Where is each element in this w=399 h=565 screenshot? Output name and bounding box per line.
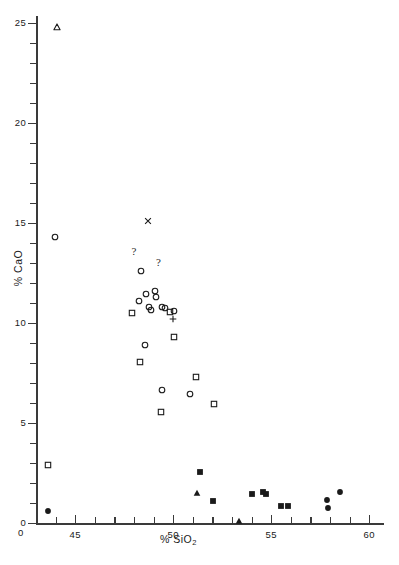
y-axis-tick-minor <box>30 343 36 344</box>
y-axis-tick-minor <box>30 203 36 204</box>
x-axis-tick-major <box>75 515 76 523</box>
data-point-open-square <box>135 358 144 367</box>
y-axis-tick-minor <box>30 463 36 464</box>
y-axis-tick-minor <box>30 163 36 164</box>
x-axis-tick-minor <box>350 517 351 523</box>
y-axis-tick-minor <box>30 443 36 444</box>
data-point-open-square <box>170 333 179 342</box>
origin-tick-label: 0 <box>18 527 24 538</box>
plot-area: 0510152025455055600 % CaO % SiO2 ?? <box>0 0 399 565</box>
x-axis-tick-label: 55 <box>256 529 286 540</box>
data-point-filled-square <box>195 468 204 477</box>
y-axis-tick-minor <box>30 283 36 284</box>
y-axis-tick-minor <box>30 243 36 244</box>
data-point-filled-triangle <box>234 517 243 526</box>
data-point-filled-triangle <box>192 489 201 498</box>
y-axis-tick-major <box>28 423 36 424</box>
data-point-open-square <box>166 308 175 317</box>
x-axis-tick-minor <box>193 517 194 523</box>
y-axis-tick-label: 10 <box>2 317 26 328</box>
x-axis-tick-label: 60 <box>354 529 384 540</box>
x-axis-tick-major <box>369 515 370 523</box>
x-axis-tick-minor <box>291 517 292 523</box>
y-axis-line <box>36 16 38 524</box>
x-axis-title: % SiO2 <box>160 533 197 547</box>
x-axis-tick-label: 45 <box>60 529 90 540</box>
x-axis-tick-minor <box>56 517 57 523</box>
y-axis-tick-major <box>28 523 36 524</box>
data-point-cross-x <box>143 217 152 226</box>
y-axis-tick-minor <box>30 143 36 144</box>
data-point-open-circle <box>151 293 160 302</box>
x-axis-tick-minor <box>154 517 155 523</box>
data-point-filled-circle <box>335 488 344 497</box>
y-axis-tick-minor <box>30 263 36 264</box>
y-axis-tick-minor <box>30 183 36 184</box>
x-axis-tick-major <box>271 515 272 523</box>
y-axis-tick-label: 5 <box>2 417 26 428</box>
data-point-open-circle <box>140 341 149 350</box>
data-point-open-circle <box>134 297 143 306</box>
data-point-filled-square <box>262 490 271 499</box>
y-axis-tick-label: 25 <box>2 17 26 28</box>
y-axis-tick-minor <box>30 63 36 64</box>
x-axis-line <box>36 523 384 525</box>
x-axis-tick-minor <box>330 517 331 523</box>
x-axis-title-subscript: 2 <box>192 538 197 547</box>
y-axis-tick-minor <box>30 103 36 104</box>
x-axis-tick-minor <box>114 517 115 523</box>
annotation-question-mark: ? <box>156 256 161 268</box>
x-axis-tick-major <box>173 515 174 523</box>
data-point-open-square <box>128 309 137 318</box>
x-axis-tick-minor <box>212 517 213 523</box>
x-axis-tick-minor <box>252 517 253 523</box>
y-axis-tick-label: 20 <box>2 117 26 128</box>
cao-vs-sio2-scatter-figure: 0510152025455055600 % CaO % SiO2 ?? <box>0 0 399 565</box>
x-axis-title-text: % SiO <box>160 533 192 545</box>
data-point-filled-circle <box>43 507 52 516</box>
y-axis-tick-minor <box>30 483 36 484</box>
data-point-open-circle <box>50 233 59 242</box>
y-axis-tick-major <box>28 323 36 324</box>
x-axis-tick-minor <box>95 517 96 523</box>
x-axis-tick-minor <box>232 517 233 523</box>
data-point-open-square <box>157 408 166 417</box>
data-point-open-circle <box>136 267 145 276</box>
y-axis-tick-minor <box>30 303 36 304</box>
x-axis-tick-minor <box>134 517 135 523</box>
data-point-open-triangle <box>52 23 61 32</box>
data-point-open-circle <box>158 386 167 395</box>
y-axis-tick-major <box>28 23 36 24</box>
data-point-open-square <box>210 400 219 409</box>
data-point-filled-square <box>247 490 256 499</box>
y-axis-tick-major <box>28 123 36 124</box>
y-axis-tick-minor <box>30 363 36 364</box>
data-point-open-square <box>43 461 52 470</box>
data-point-filled-square <box>209 497 218 506</box>
data-point-filled-square <box>283 502 292 511</box>
data-point-open-circle <box>185 390 194 399</box>
y-axis-tick-minor <box>30 403 36 404</box>
y-axis-tick-minor <box>30 83 36 84</box>
y-axis-tick-minor <box>30 503 36 504</box>
x-axis-tick-minor <box>310 517 311 523</box>
data-point-filled-circle <box>324 504 333 513</box>
y-axis-tick-label: 15 <box>2 217 26 228</box>
y-axis-title: % CaO <box>12 238 24 298</box>
y-axis-tick-major <box>28 223 36 224</box>
data-point-open-circle <box>146 306 155 315</box>
y-axis-tick-minor <box>30 383 36 384</box>
y-axis-tick-minor <box>30 43 36 44</box>
annotation-question-mark: ? <box>132 245 137 257</box>
data-point-open-square <box>191 373 200 382</box>
